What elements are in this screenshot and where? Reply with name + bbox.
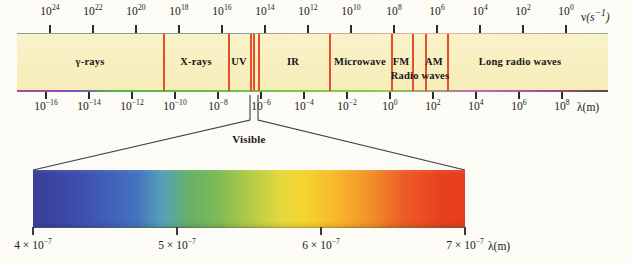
band-label: UV — [231, 56, 247, 67]
frequency-tick-label: 100 — [558, 6, 574, 18]
frequency-tick-label: 1020 — [126, 6, 146, 18]
frequency-tick — [221, 25, 222, 33]
frequency-tick — [350, 25, 351, 33]
band-sublabel-radio-waves: Radio waves — [391, 70, 450, 81]
visible-tick-label: 4 × 10−7 — [14, 240, 52, 252]
band-label: AM — [425, 56, 443, 67]
visible-tick-label: 7 × 10−7 — [446, 240, 484, 252]
frequency-tick-label: 1024 — [40, 6, 60, 18]
frequency-tick — [522, 25, 523, 33]
band-divider — [228, 34, 230, 91]
frequency-tick-label: 1022 — [83, 6, 103, 18]
band-divider — [163, 34, 165, 91]
frequency-tick — [264, 25, 265, 33]
band-divider — [250, 34, 252, 91]
frequency-tick — [436, 25, 437, 33]
visible-tick — [176, 227, 177, 235]
frequency-tick-label: 1016 — [212, 6, 232, 18]
frequency-tick-label: 1010 — [341, 6, 361, 18]
visible-tick-label: 6 × 10−7 — [302, 240, 340, 252]
frequency-tick — [178, 25, 179, 33]
frequency-tick — [307, 25, 308, 33]
visible-tick — [32, 227, 33, 235]
frequency-axis-title: ν(s−1) — [581, 7, 610, 23]
frequency-tick-label: 1018 — [169, 6, 189, 18]
visible-tick — [464, 227, 465, 235]
visible-callout-label: Visible — [232, 133, 265, 145]
frequency-tick — [479, 25, 480, 33]
frequency-tick — [135, 25, 136, 33]
band-divider — [253, 34, 255, 91]
visible-callout-lines — [0, 95, 632, 175]
frequency-tick-label: 104 — [472, 6, 488, 18]
frequency-tick — [565, 25, 566, 33]
band-divider — [329, 34, 331, 91]
visible-spectrum-bar — [33, 170, 465, 227]
frequency-tick — [393, 25, 394, 33]
frequency-tick — [92, 25, 93, 33]
visible-tick — [320, 227, 321, 235]
frequency-tick — [49, 25, 50, 33]
band-label: Long radio waves — [479, 56, 562, 67]
visible-axis-title: λ(m) — [488, 240, 510, 252]
band-label: γ-rays — [76, 56, 105, 67]
band-divider — [412, 34, 414, 91]
band-divider — [447, 34, 449, 91]
band-label: IR — [287, 56, 299, 67]
frequency-tick-label: 1012 — [298, 6, 318, 18]
visible-tick-label: 5 × 10−7 — [158, 240, 196, 252]
band-label: X-rays — [180, 56, 212, 67]
frequency-tick-label: 106 — [429, 6, 445, 18]
frequency-tick-label: 108 — [386, 6, 402, 18]
visible-axis-line — [33, 227, 465, 228]
frequency-tick-label: 1014 — [255, 6, 275, 18]
band-divider — [258, 34, 260, 91]
electromagnetic-spectrum-figure: 1024102210201018101610141012101010810610… — [0, 0, 632, 263]
band-label: Microwave — [334, 56, 386, 67]
frequency-tick-label: 102 — [515, 6, 531, 18]
band-label: FM — [393, 56, 410, 67]
